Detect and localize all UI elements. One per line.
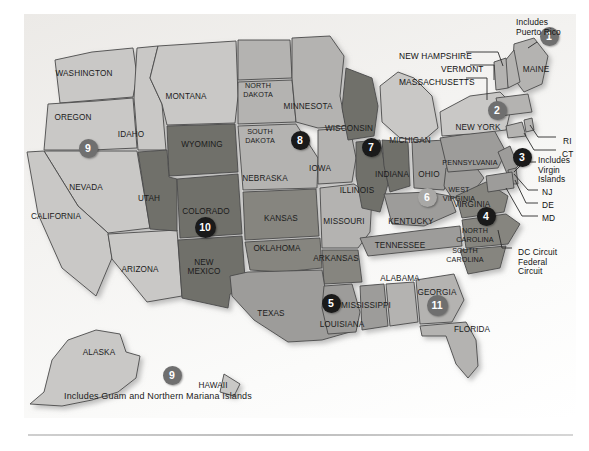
state-label-new-york: NEW YORK xyxy=(455,123,501,132)
circuit-badge-number: 5 xyxy=(328,297,334,309)
circuit-badge-9[interactable]: 9 xyxy=(79,139,98,158)
callout-delaware: DE xyxy=(542,201,554,211)
state-label-washington: WASHINGTON xyxy=(56,69,113,78)
circuit-badge-number: 11 xyxy=(431,299,442,311)
state-label-ohio: OHIO xyxy=(418,170,439,179)
circuit-badge-number: 9 xyxy=(169,369,175,381)
circuit-badge-number: 2 xyxy=(494,104,500,116)
circuit-badge-8[interactable]: 8 xyxy=(291,131,310,150)
state-vermont xyxy=(494,58,508,90)
state-label-florida: FLORIDA xyxy=(454,325,491,334)
state-label-iowa: IOWA xyxy=(309,164,331,173)
state-label-minnesota: MINNESOTA xyxy=(284,102,333,111)
callout-vermont: VERMONT xyxy=(441,65,484,75)
state-connecticut xyxy=(506,122,526,138)
state-label-california: CALIFORNIA xyxy=(31,212,82,221)
circuit-badge-number: 4 xyxy=(483,210,489,222)
state-montana xyxy=(150,41,238,125)
state-label-alabama: ALABAMA xyxy=(380,274,420,283)
circuit-badge-number: 6 xyxy=(424,191,430,203)
state-label-arizona: ARIZONA xyxy=(121,265,159,274)
state-label-nebraska: NEBRASKA xyxy=(242,174,288,183)
state-label-wisconsin: WISCONSIN xyxy=(325,124,373,133)
bottom-divider xyxy=(28,434,573,436)
state-label-oregon: OREGON xyxy=(55,113,92,122)
callout-rhode-island: RI xyxy=(563,137,572,147)
state-label-alaska: ALASKA xyxy=(83,348,116,357)
state-label-indiana: INDIANA xyxy=(375,170,409,179)
guam-footnote: Includes Guam and Northern Mariana Islan… xyxy=(64,391,252,401)
state-label-maine: MAINE xyxy=(523,65,550,74)
circuit-badge-4[interactable]: 4 xyxy=(477,207,496,226)
circuit-badge-number: 10 xyxy=(199,221,211,233)
circuit-badge-number: 8 xyxy=(297,134,303,146)
state-maryland xyxy=(486,172,514,192)
state-label-idaho: IDAHO xyxy=(118,130,144,139)
state-wyoming xyxy=(167,124,238,176)
circuit-badge-7[interactable]: 7 xyxy=(362,138,381,157)
state-label-colorado: COLORADO xyxy=(182,207,230,216)
state-label-kansas: KANSAS xyxy=(264,214,298,223)
callout-maryland: MD xyxy=(542,214,555,224)
circuit-badge-2[interactable]: 2 xyxy=(488,101,507,120)
circuit-badge-5[interactable]: 5 xyxy=(322,294,341,313)
circuit-badge-10[interactable]: 10 xyxy=(195,217,216,238)
judicial-circuits-map-page: WASHINGTONOREGONIDAHOMONTANANEVADACALIFO… xyxy=(0,0,589,451)
callout-includes-virgin-islands: Includes Virgin Islands xyxy=(538,156,570,185)
state-label-mississippi: MISSISSIPPI xyxy=(341,301,391,310)
state-label-oklahoma: OKLAHOMA xyxy=(253,244,301,253)
state-label-arkansas: ARKANSAS xyxy=(313,254,359,263)
callout-includes-puerto-rico: Includes Puerto Rico xyxy=(516,18,561,37)
state-label-missouri: MISSOURI xyxy=(323,217,364,226)
state-label-michigan: MICHIGAN xyxy=(389,136,431,145)
callout-massachusetts: MASSACHUSETTS xyxy=(399,78,475,88)
state-label-illinois: ILLINOIS xyxy=(340,186,375,195)
state-north-dakota xyxy=(238,40,292,80)
state-label-nevada: NEVADA xyxy=(69,183,103,192)
circuit-badge-9[interactable]: 9 xyxy=(163,366,182,385)
circuit-badge-number: 9 xyxy=(85,142,91,154)
state-label-tennessee: TENNESSEE xyxy=(375,241,426,250)
callout-new-hampshire: NEW HAMPSHIRE xyxy=(399,52,472,62)
circuit-badge-number: 3 xyxy=(519,151,525,163)
callout-new-jersey: NJ xyxy=(542,188,552,198)
state-label-louisiana: LOUISIANA xyxy=(320,320,365,329)
callout-dc-federal-circuit: DC Circuit Federal Circuit xyxy=(518,248,557,277)
state-rhode-island xyxy=(524,118,534,132)
state-label-kentucky: KENTUCKY xyxy=(388,217,434,226)
us-map-graphic: WASHINGTONOREGONIDAHOMONTANANEVADACALIFO… xyxy=(0,0,589,451)
state-label-south-dakota: SOUTHDAKOTA xyxy=(245,127,275,145)
circuit-badge-6[interactable]: 6 xyxy=(418,188,437,207)
state-label-montana: MONTANA xyxy=(165,92,206,101)
circuit-badge-number: 7 xyxy=(368,141,374,153)
state-label-pennsylvania: PENNSYLVANIA xyxy=(442,158,497,167)
state-label-texas: TEXAS xyxy=(257,309,285,318)
state-label-utah: UTAH xyxy=(138,194,160,203)
circuit-badge-11[interactable]: 11 xyxy=(427,295,448,316)
state-label-wyoming: WYOMING xyxy=(181,140,223,149)
state-label-north-dakota: NORTHDAKOTA xyxy=(243,81,273,99)
state-minnesota xyxy=(292,36,346,128)
circuit-badge-3[interactable]: 3 xyxy=(513,148,532,167)
state-label-hawaii: HAWAII xyxy=(198,381,227,390)
